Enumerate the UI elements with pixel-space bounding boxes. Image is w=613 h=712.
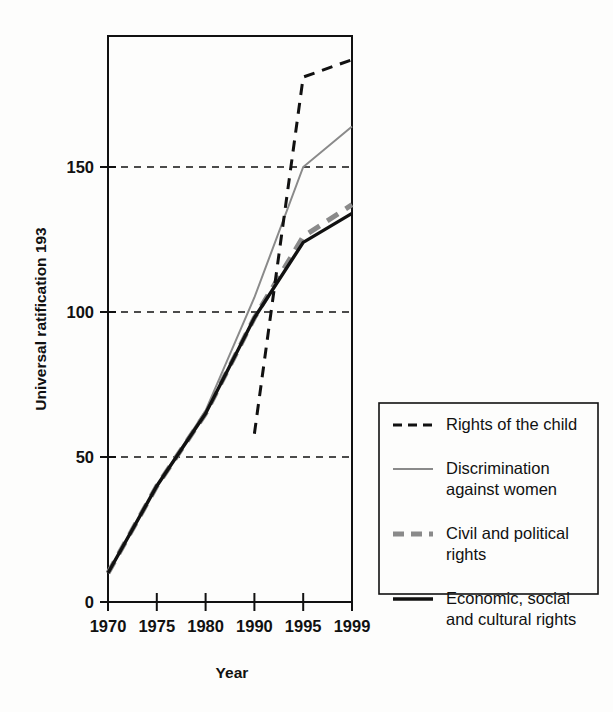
x-tick-label-1975: 1975 <box>138 617 175 635</box>
y-tick-label-0: 0 <box>85 593 94 611</box>
x-tick-label-1990: 1990 <box>236 617 273 635</box>
y-tick-label-150: 150 <box>66 158 94 176</box>
x-axis-title: Year <box>216 664 249 681</box>
chart-figure: 050100150 197019751980199019951999 Unive… <box>0 0 613 712</box>
legend-label-3-line2: and cultural rights <box>446 610 576 628</box>
y-tick-label-100: 100 <box>66 303 94 321</box>
x-tick-label-1980: 1980 <box>187 617 224 635</box>
y-tick-label-50: 50 <box>76 448 94 466</box>
chart-svg: 050100150 197019751980199019951999 Unive… <box>0 0 613 712</box>
legend-label-2: Civil and political <box>446 524 569 542</box>
x-tick-label-1999: 1999 <box>334 617 371 635</box>
x-tick-label-1970: 1970 <box>90 617 127 635</box>
legend-label-0: Rights of the child <box>446 415 577 433</box>
legend: Rights of the childDiscriminationagainst… <box>379 403 598 628</box>
legend-label-2-line2: rights <box>446 545 486 563</box>
legend-label-1: Discrimination <box>446 459 550 477</box>
legend-label-1-line2: against women <box>446 480 557 498</box>
x-tick-label-1995: 1995 <box>285 617 322 635</box>
legend-label-3: Economic, social <box>446 589 570 607</box>
y-axis-title: Universal ratification 193 <box>32 227 49 411</box>
